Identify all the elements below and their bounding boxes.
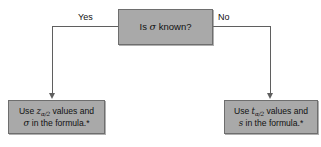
outcome-right-suffix: values and <box>264 106 308 116</box>
z-subscript: α/2 <box>41 110 50 116</box>
arrowhead-yes-icon <box>49 93 55 99</box>
t-subscript: α/2 <box>255 110 264 116</box>
branch-label-yes: Yes <box>78 12 93 22</box>
outcome-left-suffix: values and <box>50 106 94 116</box>
outcome-right-line2-suffix: in the formula.* <box>243 118 303 128</box>
caption-fragment <box>3 139 5 147</box>
decision-text-suffix: known? <box>156 21 191 32</box>
outcome-right-text: Use tα/2 values and s in the formula.* <box>225 106 317 129</box>
outcome-right-line-2: s in the formula.* <box>228 118 314 129</box>
decision-text-prefix: Is <box>140 21 150 32</box>
outcome-right-line-1: Use tα/2 values and <box>228 106 314 118</box>
outcome-left-text: Use zα/2 values and σ in the formula.* <box>9 106 104 129</box>
arrowhead-no-icon <box>267 93 273 99</box>
outcome-left-line2-suffix: in the formula.* <box>29 118 89 128</box>
outcome-right-prefix: Use <box>234 106 252 116</box>
flowchart-figure: Yes No Is σ known? Use zα/2 values and σ… <box>0 0 321 147</box>
outcome-left-line-2: σ in the formula.* <box>12 118 101 129</box>
connector-no-horizontal <box>213 26 271 27</box>
connector-yes-horizontal <box>52 26 118 27</box>
branch-label-no: No <box>218 12 230 22</box>
decision-node-is-sigma-known: Is σ known? <box>118 9 213 45</box>
outcome-node-use-t-values: Use tα/2 values and s in the formula.* <box>224 100 318 134</box>
connector-yes-vertical <box>52 26 53 94</box>
decision-node-text: Is σ known? <box>119 21 212 33</box>
outcome-left-prefix: Use <box>19 106 37 116</box>
outcome-node-use-z-values: Use zα/2 values and σ in the formula.* <box>8 100 105 134</box>
connector-no-vertical <box>270 26 271 94</box>
outcome-left-line-1: Use zα/2 values and <box>12 106 101 118</box>
